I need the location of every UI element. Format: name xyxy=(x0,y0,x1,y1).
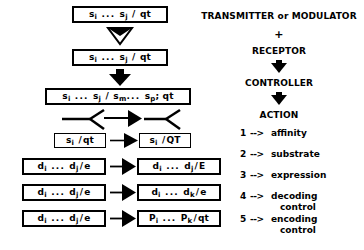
action-number: 5 xyxy=(240,214,250,224)
node-label: di ... dk/e xyxy=(151,188,206,197)
action-arrow: --> xyxy=(250,191,271,201)
node-label: di ... dj/e xyxy=(38,214,91,223)
node-label: di ... dj/E xyxy=(153,162,206,171)
node-d-i-d-j-e-row2: di ... dj/e xyxy=(22,184,106,201)
action-label: encoding xyxy=(271,214,317,224)
node-label: si /QT xyxy=(149,136,180,145)
action-list-item-5: 5-->encoding control xyxy=(240,214,317,235)
action-list-item-2: 2-->substrate xyxy=(240,149,320,159)
node-label: si ... sj / qt xyxy=(89,10,151,19)
node-s-i-s-j-s-m-s-p-qt: si ... sj / sm... sp; qt xyxy=(45,88,191,105)
node-s-i-s-j-qt-top: si ... sj / qt xyxy=(72,6,168,23)
action-arrow: --> xyxy=(250,149,271,159)
node-label: di ... dj/e xyxy=(38,162,91,171)
node-label: si ... sj / qt xyxy=(89,53,151,62)
action-label: substrate xyxy=(271,149,320,159)
action-label-continued: control xyxy=(240,225,317,235)
right-branch-fork-icon xyxy=(144,110,180,129)
action-list-item-3: 3-->expression xyxy=(240,170,326,180)
node-s-i-qt-lower: si /qt xyxy=(54,133,106,148)
node-d-i-d-j-e-row1: di ... dj/e xyxy=(22,158,106,175)
action-number: 3 xyxy=(240,170,250,180)
node-label: di ... dj/e xyxy=(38,188,91,197)
row-arrow-d3-icon xyxy=(110,210,136,227)
action-label-continued: control xyxy=(240,202,317,212)
action-arrow: --> xyxy=(250,128,271,138)
right-col-action: ACTION xyxy=(260,111,299,120)
node-d-i-d-k-e: di ... dk/e xyxy=(137,184,221,201)
action-number: 4 xyxy=(240,191,250,201)
node-d-i-d-j-e-row3: di ... dj/e xyxy=(22,210,106,227)
controller-to-action-arrow-icon xyxy=(271,92,287,105)
action-label: decoding xyxy=(271,191,317,201)
action-number: 2 xyxy=(240,149,250,159)
action-arrow: --> xyxy=(250,214,271,224)
action-label: expression xyxy=(271,170,326,180)
node-s-i-QT: si /QT xyxy=(139,133,191,148)
row-arrow-d2-icon xyxy=(110,184,136,201)
right-col-transmitter-line: TRANSMITTER or MODULATOR xyxy=(201,12,356,21)
right-col-receptor: RECEPTOR xyxy=(252,47,306,56)
action-label: affinity xyxy=(271,128,307,138)
row-arrow-s-icon xyxy=(110,133,138,148)
left-branch-fork-icon xyxy=(62,110,104,129)
flow-diagram: si ... sj / qt si ... sj / qt si ... sj … xyxy=(0,0,364,250)
receptor-to-controller-arrow-icon xyxy=(271,60,287,73)
hollow-down-arrow-icon xyxy=(108,28,132,44)
solid-down-arrow-icon xyxy=(109,69,131,86)
right-col-controller: CONTROLLER xyxy=(245,79,313,88)
node-P-i-P-k-qt: Pi ... Pk/qt xyxy=(137,210,221,227)
action-list-item-4: 4-->decoding control xyxy=(240,191,317,212)
action-arrow: --> xyxy=(250,170,271,180)
node-label: Pi ... Pk/qt xyxy=(149,214,209,223)
node-label: si /qt xyxy=(66,136,94,145)
row-arrow-d1-icon xyxy=(110,158,136,175)
right-col-plus-sign: + xyxy=(274,29,283,40)
node-label: si ... sj / sm... sp; qt xyxy=(62,92,173,101)
center-right-arrow-icon xyxy=(104,110,142,127)
action-number: 1 xyxy=(240,128,250,138)
node-d-i-d-j-E: di ... dj/E xyxy=(137,158,221,175)
node-s-i-s-j-qt-second: si ... sj / qt xyxy=(72,49,168,66)
action-list-item-1: 1-->affinity xyxy=(240,128,307,138)
